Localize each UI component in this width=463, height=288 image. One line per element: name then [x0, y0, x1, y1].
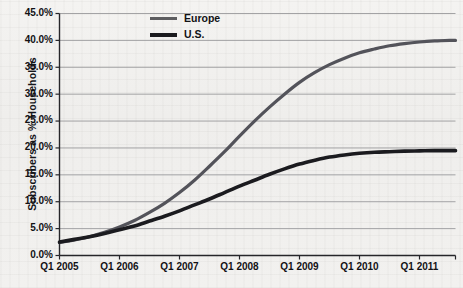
x-tick-label: Q1 2006	[100, 261, 138, 272]
series-line-europe	[60, 40, 456, 242]
x-tick-label: Q1 2008	[220, 261, 258, 272]
legend-label-europe: Europe	[184, 13, 220, 24]
x-tick-label: Q1 2009	[280, 261, 318, 272]
plot-area	[0, 0, 463, 288]
x-tick-label: Q1 2007	[160, 261, 198, 272]
legend-swatch-europe	[150, 17, 177, 20]
x-tick-label: Q1 2011	[401, 261, 439, 272]
chart-container: Subscribers as % Households 45.0% 40.0% …	[0, 0, 463, 288]
legend-swatch-us	[150, 33, 177, 37]
tick-marks	[56, 14, 456, 260]
x-tick-label: Q1 2005	[40, 261, 78, 272]
legend-item-europe: Europe	[150, 12, 220, 25]
data-series	[60, 40, 456, 242]
axis-lines	[60, 14, 456, 256]
x-tick-label: Q1 2010	[340, 261, 378, 272]
chart-legend: Europe U.S.	[150, 12, 220, 41]
legend-item-us: U.S.	[150, 28, 220, 41]
legend-label-us: U.S.	[184, 29, 204, 40]
